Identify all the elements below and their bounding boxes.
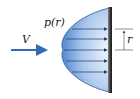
flat-plate [108,7,112,93]
pressure-label: p(r) [44,17,65,28]
diagram-canvas [0,0,140,99]
radius-label: r [127,34,132,45]
velocity-label: V [22,34,30,45]
